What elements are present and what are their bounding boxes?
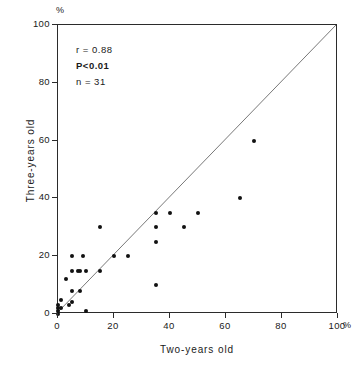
x-axis-tick: [113, 313, 114, 318]
p-value-label: P<0.01: [76, 58, 112, 74]
y-axis-percent-symbol: %: [56, 5, 64, 15]
x-axis-tick-label: 0: [37, 320, 77, 331]
scatter-point: [196, 211, 200, 215]
x-axis-tick: [281, 313, 282, 318]
y-axis-tick-label: 20: [8, 249, 50, 260]
correlation-coefficient-label: r = 0.88: [76, 42, 112, 58]
scatter-point: [59, 298, 63, 302]
scatter-point: [154, 240, 158, 244]
y-axis-title: Three-years old: [25, 71, 36, 251]
scatter-point: [70, 289, 74, 293]
x-axis-title: Two-years old: [57, 344, 337, 355]
scatter-point: [98, 269, 102, 273]
y-axis-tick: [52, 82, 57, 83]
x-axis-tick: [225, 313, 226, 318]
x-axis-tick-label: 80: [261, 320, 301, 331]
y-axis-tick-label: 0: [8, 307, 50, 318]
x-axis-tick-label: 40: [149, 320, 189, 331]
y-axis-tick: [52, 313, 57, 314]
scatter-point: [70, 269, 74, 273]
scatter-point: [84, 269, 88, 273]
y-axis-tick-label: 100: [8, 18, 50, 29]
scatter-point: [168, 211, 172, 215]
scatter-point: [154, 211, 158, 215]
x-axis-tick: [57, 313, 58, 318]
x-axis-tick-label: 100: [317, 320, 357, 331]
x-axis-tick: [169, 313, 170, 318]
y-axis-tick: [52, 24, 57, 25]
statistics-annotation: r = 0.88 P<0.01 n = 31: [76, 42, 112, 90]
x-axis-tick-label: 60: [205, 320, 245, 331]
y-axis-tick: [52, 140, 57, 141]
scatter-point: [252, 139, 256, 143]
sample-size-label: n = 31: [76, 74, 112, 90]
scatter-plot-figure: % % 020406080100020406080100 r = 0.88 P<…: [0, 0, 361, 371]
x-axis-tick: [337, 313, 338, 318]
scatter-point: [84, 309, 88, 313]
y-axis-tick: [52, 197, 57, 198]
y-axis-tick: [52, 255, 57, 256]
x-axis-tick-label: 20: [93, 320, 133, 331]
